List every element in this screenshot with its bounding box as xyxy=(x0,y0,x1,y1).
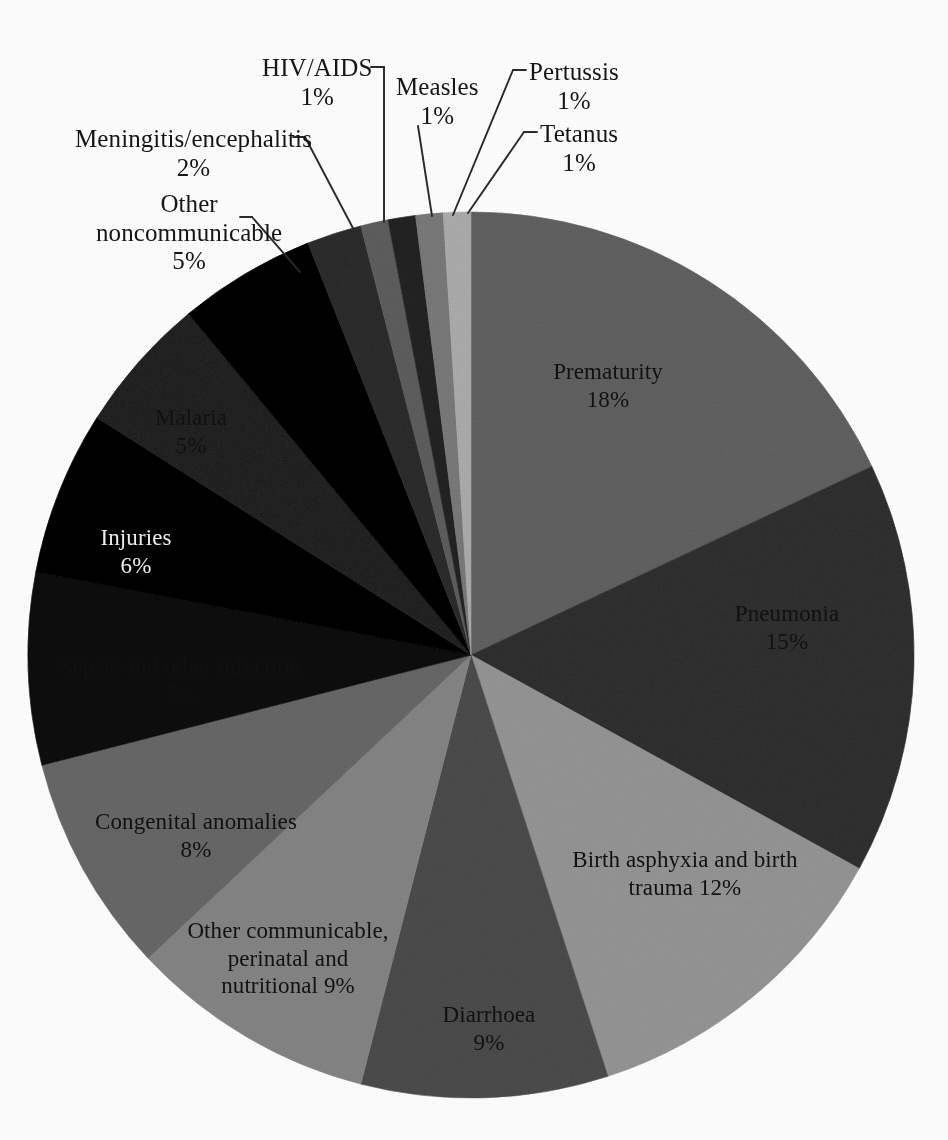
callout-title-measles: Measles xyxy=(396,73,479,100)
slice-line2-other-communicable: perinatal and xyxy=(228,946,349,971)
slice-pct-congenital-anomalies: 8% xyxy=(181,837,212,862)
slice-title-pneumonia: Pneumonia xyxy=(735,601,839,626)
slice-label-other-communicable: Other communicable, perinatal and nutrit… xyxy=(187,917,388,1000)
callout-title-tetanus: Tetanus xyxy=(540,120,618,147)
callout-meningitis-encephalitis: Meningitis/encephalitis 2% xyxy=(75,125,312,182)
callout-pct-measles: 1% xyxy=(396,102,479,131)
leader-line-measles xyxy=(418,126,432,216)
callout-pct-hiv-aids: 1% xyxy=(262,83,373,112)
callout-hiv-aids: HIV/AIDS 1% xyxy=(262,54,373,111)
slice-label-malaria: Malaria 5% xyxy=(155,404,227,459)
callout-title-other-noncommunicable: Other xyxy=(160,190,217,217)
slice-pct-other-communicable: nutritional 9% xyxy=(221,973,355,998)
slice-label-diarrhoea: Diarrhoea 9% xyxy=(443,1001,536,1056)
callout-title-hiv-aids: HIV/AIDS xyxy=(262,54,373,81)
slice-title-malaria: Malaria xyxy=(155,405,227,430)
slice-title-diarrhoea: Diarrhoea xyxy=(443,1002,536,1027)
slice-pct-malaria: 5% xyxy=(176,433,207,458)
callout-pertussis: Pertussis 1% xyxy=(529,58,619,115)
callout-title-pertussis: Pertussis xyxy=(529,58,619,85)
leader-line-meningitis-encephalitis xyxy=(305,137,355,232)
slice-title-other-communicable: Other communicable, xyxy=(187,918,388,943)
callout-title-meningitis-encephalitis: Meningitis/encephalitis xyxy=(75,125,312,152)
slice-pct-sepsis: 7% xyxy=(165,682,196,707)
slice-pct-diarrhoea: 9% xyxy=(474,1030,505,1055)
slice-title-congenital-anomalies: Congenital anomalies xyxy=(95,809,297,834)
slice-pct-birth-asphyxia: trauma 12% xyxy=(629,875,742,900)
slice-label-congenital-anomalies: Congenital anomalies 8% xyxy=(95,808,297,863)
slice-label-prematurity: Prematurity 18% xyxy=(553,358,663,413)
slice-label-injuries: Injuries 6% xyxy=(100,524,171,579)
leader-line-tetanus xyxy=(468,132,524,213)
pie-chart-figure: Prematurity 18% Pneumonia 15% Birth asph… xyxy=(0,0,948,1140)
callout-pct-other-noncommunicable: 5% xyxy=(96,247,282,276)
callout-other-noncommunicable: Other noncommunicable 5% xyxy=(96,190,282,276)
callout-pct-meningitis-encephalitis: 2% xyxy=(75,154,312,183)
slice-label-sepsis: Sepsis and other infection 7% xyxy=(60,653,301,708)
callout-line2-other-noncommunicable: noncommunicable xyxy=(96,219,282,246)
callout-tetanus: Tetanus 1% xyxy=(540,120,618,177)
slice-title-injuries: Injuries xyxy=(100,525,171,550)
slice-pct-injuries: 6% xyxy=(121,553,152,578)
slice-title-birth-asphyxia: Birth asphyxia and birth xyxy=(572,847,797,872)
slice-label-birth-asphyxia: Birth asphyxia and birth trauma 12% xyxy=(572,846,797,901)
callout-pct-tetanus: 1% xyxy=(540,149,618,178)
slice-label-pneumonia: Pneumonia 15% xyxy=(735,600,839,655)
slice-title-sepsis: Sepsis and other infection xyxy=(60,654,301,679)
callout-measles: Measles 1% xyxy=(396,73,479,130)
slice-pct-pneumonia: 15% xyxy=(766,629,808,654)
callout-pct-pertussis: 1% xyxy=(529,87,619,116)
slice-title-prematurity: Prematurity xyxy=(553,359,663,384)
slice-pct-prematurity: 18% xyxy=(587,387,629,412)
